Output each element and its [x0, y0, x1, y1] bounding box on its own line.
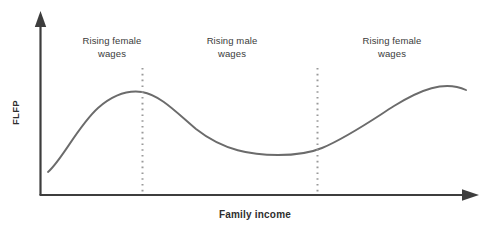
- flfp-family-income-chart: Rising female wages Rising male wages Ri…: [0, 0, 498, 235]
- annotation-rising-female-wages-low: Rising female wages: [52, 34, 172, 60]
- arrow-up-icon: [35, 11, 46, 27]
- annotation-rising-male-wages: Rising male wages: [172, 34, 292, 60]
- annotation-rising-female-wages-high: Rising female wages: [330, 34, 454, 60]
- y-axis-title: FLFP: [10, 87, 21, 139]
- flfp-curve: [48, 86, 466, 172]
- arrow-right-icon: [462, 189, 479, 201]
- x-axis-title: Family income: [175, 209, 335, 220]
